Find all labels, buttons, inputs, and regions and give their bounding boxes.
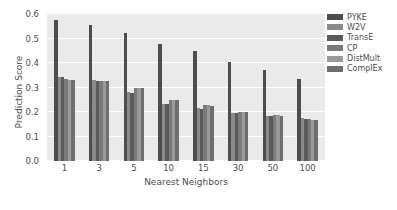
legend-label: ComplEx (347, 64, 382, 73)
y-axis-tick-label: 0.2 (25, 107, 39, 117)
y-axis-tick-label: 0.3 (25, 83, 39, 93)
legend-swatch-icon (327, 14, 343, 20)
legend-label: PYKE (347, 13, 367, 22)
bar (71, 80, 74, 161)
legend-swatch-icon (327, 24, 343, 30)
bar-group (156, 14, 182, 161)
legend-swatch-icon (327, 66, 343, 72)
x-axis-tick-label: 50 (260, 163, 286, 173)
bar-group (121, 14, 147, 161)
legend-item[interactable]: CP (327, 44, 397, 52)
bar (106, 81, 109, 161)
x-axis-tick-labels: 13510153050100 (47, 163, 325, 177)
bar (314, 120, 317, 161)
x-axis-tick-label: 30 (225, 163, 251, 173)
x-axis-tick-label: 3 (86, 163, 112, 173)
y-axis-tick-label: 0.4 (25, 58, 39, 68)
bar (210, 106, 213, 161)
legend-item[interactable]: W2V (327, 23, 397, 31)
legend-label: W2V (347, 23, 365, 32)
bar-group (225, 14, 251, 161)
legend-swatch-icon (327, 45, 343, 51)
x-axis-tick-label: 10 (156, 163, 182, 173)
legend-label: CP (347, 44, 357, 53)
plot-area (47, 14, 325, 161)
y-axis-title: Prediction Score (14, 32, 24, 152)
legend-label: TransE (347, 33, 373, 42)
x-axis-tick-label: 100 (295, 163, 321, 173)
bar-group (190, 14, 216, 161)
legend-item[interactable]: PYKE (327, 13, 397, 21)
legend-item[interactable]: DistMult (327, 55, 397, 63)
bar (175, 100, 178, 161)
bar-group (260, 14, 286, 161)
bar (280, 116, 283, 161)
bar-group (295, 14, 321, 161)
legend-label: DistMult (347, 54, 380, 63)
legend-item[interactable]: ComplEx (327, 65, 397, 73)
legend-swatch-icon (327, 56, 343, 62)
bar (141, 88, 144, 161)
y-axis-tick-label: 0.0 (25, 156, 39, 166)
y-axis-tick-label: 0.5 (25, 34, 39, 44)
chart-legend: PYKEW2VTransECPDistMultComplEx (327, 13, 397, 73)
chart-figure: 0.00.10.20.30.40.50.6 Prediction Score 1… (0, 0, 397, 210)
x-axis-tick-label: 15 (190, 163, 216, 173)
bar-group (51, 14, 77, 161)
x-axis-title: Nearest Neighbors (47, 177, 325, 187)
bar-series-layer (47, 14, 325, 161)
x-axis-tick-label: 1 (51, 163, 77, 173)
bar-group (86, 14, 112, 161)
y-axis-tick-label: 0.1 (25, 132, 39, 142)
bar (245, 112, 248, 161)
y-axis-tick-label: 0.6 (25, 9, 39, 19)
x-axis-tick-label: 5 (121, 163, 147, 173)
legend-item[interactable]: TransE (327, 34, 397, 42)
legend-swatch-icon (327, 35, 343, 41)
